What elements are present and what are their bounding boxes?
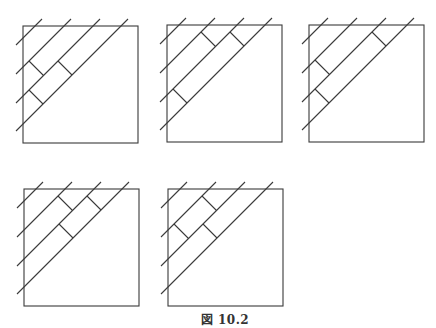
figure-caption: 図 10.2: [0, 310, 436, 327]
rung-segment: [173, 89, 187, 103]
rung-segment: [230, 32, 244, 46]
tiling-figure-3: [302, 18, 424, 142]
rung-segment: [58, 196, 73, 211]
tiling-figure-4: [17, 182, 139, 306]
square-outline: [167, 25, 282, 142]
diagonal-line-0: [17, 182, 43, 208]
rung-segment: [59, 224, 73, 238]
diagonal-line-1: [302, 18, 357, 73]
figure-canvas: [0, 0, 436, 328]
rung-segment: [201, 32, 216, 47]
rung-segment: [202, 196, 217, 211]
diagonal-line-0: [161, 182, 187, 208]
rung-segment: [315, 89, 329, 103]
rung-segment: [29, 61, 44, 76]
tiling-figure-5: [161, 182, 283, 306]
rung-segment: [174, 224, 189, 239]
square-outline: [168, 189, 283, 306]
rung-segment: [203, 224, 217, 238]
square-outline: [23, 26, 138, 143]
rung-segment: [29, 90, 43, 104]
square-outline: [309, 25, 424, 142]
diagonal-line-0: [160, 18, 186, 44]
rung-segment: [372, 32, 386, 46]
tiling-figure-1: [16, 19, 138, 143]
diagonal-line-0: [302, 18, 328, 44]
tiling-figure-2: [160, 18, 282, 142]
diagonal-line-0: [16, 19, 42, 45]
square-outline: [24, 189, 139, 306]
rung-segment: [58, 61, 72, 75]
diagonal-line-1: [160, 18, 215, 73]
rung-segment: [87, 196, 101, 210]
rung-segment: [315, 60, 330, 75]
diagonal-line-3: [160, 18, 272, 130]
diagonal-line-3: [302, 18, 414, 130]
